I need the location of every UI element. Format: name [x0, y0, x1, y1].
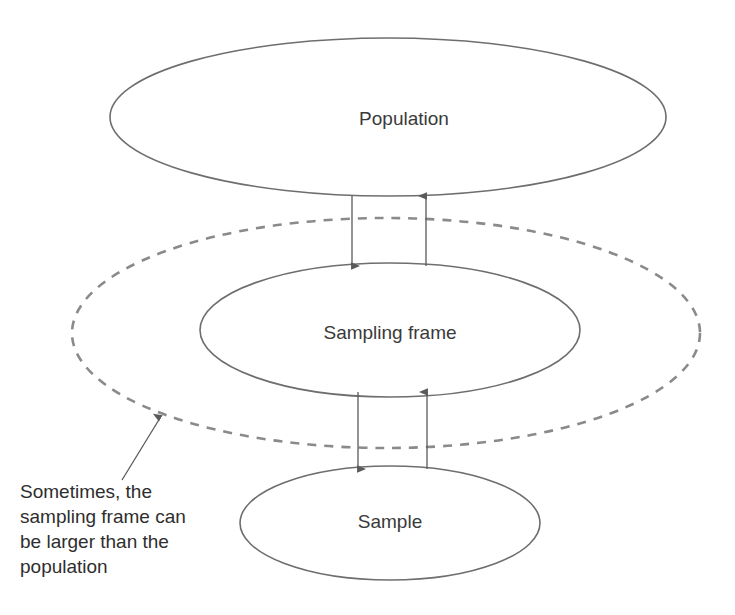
annotation-caption-line: population	[20, 556, 108, 577]
diagram-root: Population Sampling frame Sample Sometim…	[0, 0, 735, 615]
annotation-caption-line: be larger than the	[20, 531, 169, 552]
sample-label: Sample	[358, 511, 422, 532]
annotation-pointer-arrow	[122, 418, 160, 480]
annotation-caption-line: sampling frame can	[20, 506, 186, 527]
diagram-canvas: Population Sampling frame Sample Sometim…	[0, 0, 735, 615]
sampling-frame-label: Sampling frame	[323, 322, 456, 343]
population-label: Population	[359, 108, 449, 129]
annotation-caption-line: Sometimes, the	[20, 481, 152, 502]
